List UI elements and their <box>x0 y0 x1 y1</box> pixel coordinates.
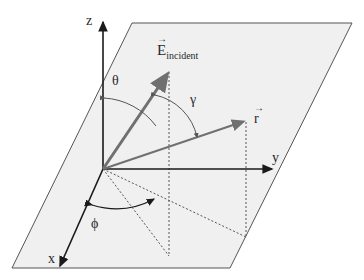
gamma-label: γ <box>190 93 196 107</box>
diagram-canvas <box>0 0 364 280</box>
e-field-subscript: incident <box>166 50 198 61</box>
phi-label: ϕ <box>91 217 98 231</box>
r-vector-label: r <box>254 112 259 126</box>
r-symbol: r <box>254 112 259 126</box>
e-field-symbol: E <box>157 43 166 58</box>
y-axis-label: y <box>272 151 279 165</box>
x-axis-label: x <box>48 252 55 266</box>
z-axis-label: z <box>86 14 92 28</box>
e-incident-label: Eincident <box>157 43 198 61</box>
theta-label: θ <box>112 74 119 88</box>
